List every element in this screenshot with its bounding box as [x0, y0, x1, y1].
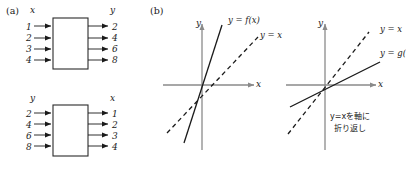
- box2-input-arrows: [34, 113, 51, 146]
- box1-output-arrows: [88, 26, 108, 60]
- box1-input-arrows: [34, 26, 51, 60]
- figure-artwork: [0, 0, 406, 179]
- function-box-g: [34, 105, 108, 156]
- figure-container: (a) x y 1 2 3 4 2 4 6 8 f(x) y x 2 4 6 8…: [0, 0, 406, 179]
- function-box-f: [34, 18, 108, 69]
- left-graph-solid-curve: [184, 25, 222, 143]
- box2-output-arrows: [88, 113, 108, 146]
- right-graph: [286, 24, 380, 150]
- right-graph-dashed-curve: [288, 32, 369, 134]
- left-graph: [163, 24, 258, 150]
